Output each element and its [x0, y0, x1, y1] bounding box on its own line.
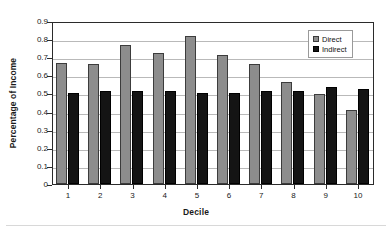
bar-indirect	[100, 91, 111, 184]
x-axis-tick	[261, 185, 262, 189]
bar-indirect	[358, 89, 369, 184]
x-axis-tick-label: 1	[53, 191, 83, 200]
y-axis-tick-label: 0.8	[22, 36, 48, 44]
bar-indirect	[165, 91, 176, 184]
legend-label-indirect: Indirect	[322, 45, 347, 54]
bar-indirect	[68, 93, 79, 184]
y-axis-title: Percentage of Income	[8, 0, 22, 38]
x-axis-tick	[229, 185, 230, 189]
legend: Direct Indirect	[308, 30, 353, 58]
bar-group	[278, 23, 310, 184]
bar-direct	[185, 36, 196, 184]
bar-group	[53, 23, 85, 184]
y-axis-tick	[47, 185, 52, 186]
x-axis-tick	[197, 185, 198, 189]
x-axis-tick-label: 7	[246, 191, 276, 200]
bar-chart: Percentage of Income 00.10.20.30.40.50.6…	[0, 0, 392, 231]
x-axis-tick-label: 4	[150, 191, 180, 200]
bar-indirect	[197, 93, 208, 184]
x-axis-tick-label: 5	[182, 191, 212, 200]
x-axis-title: Decile	[0, 207, 392, 217]
legend-item-direct: Direct	[313, 34, 347, 44]
bar-direct	[346, 110, 357, 184]
bar-group	[246, 23, 278, 184]
y-axis-tick-label: 0.6	[22, 72, 48, 80]
legend-swatch-indirect-icon	[313, 46, 319, 52]
y-axis-tick-label: 0.7	[22, 54, 48, 62]
bar-direct	[153, 53, 164, 184]
x-axis-tick-label: 2	[85, 191, 115, 200]
legend-swatch-direct-icon	[313, 36, 319, 42]
bar-direct	[217, 55, 228, 184]
bar-indirect	[132, 91, 143, 184]
y-axis-tick-label: 0.4	[22, 109, 48, 117]
x-axis-tick-label: 6	[214, 191, 244, 200]
x-axis-tick-label: 10	[343, 191, 373, 200]
y-axis-tick-label: 0.5	[22, 90, 48, 98]
legend-item-indirect: Indirect	[313, 44, 347, 54]
x-axis-tick-label: 8	[279, 191, 309, 200]
x-axis-tick	[165, 185, 166, 189]
bar-direct	[120, 45, 131, 184]
y-axis-tick-label: 0.9	[22, 18, 48, 26]
bar-direct	[314, 94, 325, 184]
bar-indirect	[326, 87, 337, 184]
bar-indirect	[293, 91, 304, 184]
bar-group	[117, 23, 149, 184]
x-axis-tick-label: 9	[311, 191, 341, 200]
bar-group	[85, 23, 117, 184]
x-axis-tick	[294, 185, 295, 189]
x-axis-tick	[326, 185, 327, 189]
x-axis-tick-label: 3	[118, 191, 148, 200]
y-axis-tick-label: 0.1	[22, 163, 48, 171]
x-axis-tick	[68, 185, 69, 189]
x-axis-tick	[358, 185, 359, 189]
bar-indirect	[229, 93, 240, 184]
x-axis-tick	[133, 185, 134, 189]
y-axis-tick-label: 0.2	[22, 145, 48, 153]
bar-group	[214, 23, 246, 184]
bar-direct	[249, 64, 260, 184]
y-axis-tick-label: 0.3	[22, 127, 48, 135]
bar-direct	[281, 82, 292, 184]
bar-direct	[56, 63, 67, 184]
y-axis-tick-label: 0	[22, 181, 48, 189]
footer-divider	[6, 225, 386, 226]
bar-indirect	[261, 91, 272, 184]
bar-group	[150, 23, 182, 184]
x-axis-tick	[100, 185, 101, 189]
legend-label-direct: Direct	[322, 35, 342, 44]
bar-group	[182, 23, 214, 184]
bar-direct	[88, 64, 99, 184]
